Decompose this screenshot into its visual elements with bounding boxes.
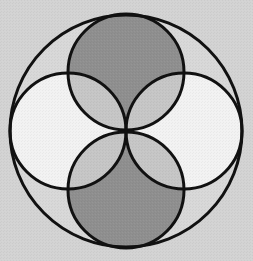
diagram-canvas xyxy=(0,0,253,261)
circles-diagram xyxy=(0,0,253,261)
